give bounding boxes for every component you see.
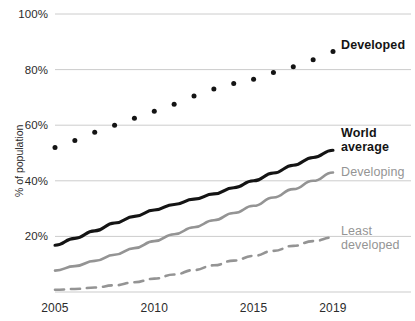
series-label-line: developed bbox=[341, 238, 400, 252]
x-tick-label: 2010 bbox=[141, 301, 169, 315]
series-label-line: Developed bbox=[341, 38, 405, 52]
series-label-developing: Developing bbox=[341, 165, 405, 179]
y-tick-label: 80% bbox=[4, 64, 48, 76]
data-point-0 bbox=[172, 102, 177, 107]
series-label-line: Least bbox=[341, 224, 400, 238]
series-path-1 bbox=[55, 150, 333, 245]
data-point-0 bbox=[192, 94, 197, 99]
y-tick-label: 20% bbox=[4, 230, 48, 242]
series-label-line: Developing bbox=[341, 165, 405, 179]
data-point-0 bbox=[271, 70, 276, 75]
data-point-0 bbox=[231, 81, 236, 86]
data-point-0 bbox=[291, 64, 296, 69]
data-point-0 bbox=[132, 116, 137, 121]
series-path-3 bbox=[55, 238, 333, 290]
series-label-developed: Developed bbox=[341, 38, 405, 52]
data-point-0 bbox=[211, 87, 216, 92]
data-point-0 bbox=[251, 77, 256, 82]
data-point-0 bbox=[72, 138, 77, 143]
y-tick-label: 40% bbox=[4, 175, 48, 187]
x-tick-label: 2015 bbox=[240, 301, 268, 315]
series-lines bbox=[53, 49, 336, 290]
x-tick-label: 2005 bbox=[41, 301, 69, 315]
series-label-line: World bbox=[341, 126, 389, 140]
series-label-world-average: Worldaverage bbox=[341, 126, 389, 154]
chart-container: % of population 20%40%60%80%100% 2005201… bbox=[0, 0, 415, 321]
y-tick-label: 60% bbox=[4, 119, 48, 131]
data-point-0 bbox=[53, 145, 58, 150]
x-tick-label: 2019 bbox=[319, 301, 347, 315]
series-label-least-developed: Leastdeveloped bbox=[341, 224, 400, 252]
y-tick-label: 100% bbox=[4, 8, 48, 20]
data-point-0 bbox=[331, 49, 336, 54]
data-point-0 bbox=[311, 57, 316, 62]
data-point-0 bbox=[152, 109, 157, 114]
data-point-0 bbox=[112, 123, 117, 128]
data-point-0 bbox=[92, 130, 97, 135]
series-path-2 bbox=[55, 172, 333, 270]
series-label-line: average bbox=[341, 140, 389, 154]
